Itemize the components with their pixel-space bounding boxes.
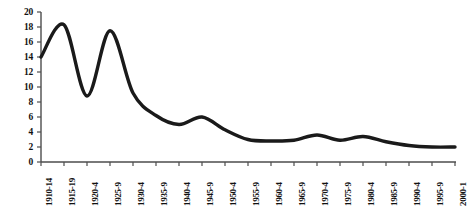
x-axis-tick-label: 1975-9 — [344, 182, 353, 206]
x-axis-tick-label: 1985-9 — [390, 182, 399, 206]
x-axis-tick-label: 1920-4 — [91, 182, 100, 206]
x-axis-tick-label: 1995-9 — [436, 182, 445, 206]
y-axis-tick-label: 2 — [11, 142, 33, 152]
data-line-series-1 — [41, 24, 455, 147]
y-axis-tick-label: 20 — [11, 7, 33, 17]
x-axis-tick-label: 1990-4 — [413, 182, 422, 206]
x-axis-tick-label: 1970-4 — [321, 182, 330, 206]
x-axis-tick-label: 1935-9 — [160, 182, 169, 206]
x-axis-tick-label: 2000-1 — [459, 182, 468, 206]
y-axis-tick-label: 10 — [11, 82, 33, 92]
x-axis-tick-label: 1925-9 — [114, 182, 123, 206]
x-axis-tick-label: 1930-4 — [137, 182, 146, 206]
x-axis-tick-label: 1910-14 — [45, 178, 54, 206]
y-axis-tick-label: 4 — [11, 127, 33, 137]
x-axis-tick-label: 1965-9 — [298, 182, 307, 206]
y-axis-tick-label: 14 — [11, 52, 33, 62]
x-axis-tick-label: 1955-9 — [252, 182, 261, 206]
y-axis-tick-label: 16 — [11, 37, 33, 47]
y-axis-tick-label: 12 — [11, 67, 33, 77]
y-axis-tick-label: 18 — [11, 22, 33, 32]
y-axis-tick-label: 0 — [11, 157, 33, 167]
x-axis-tick-label: 1945-9 — [206, 182, 215, 206]
x-axis-tick-label: 1960-4 — [275, 182, 284, 206]
x-axis-tick-label: 1940-4 — [183, 182, 192, 206]
x-axis-tick-label: 1950-4 — [229, 182, 238, 206]
x-axis-tick-label: 1915-19 — [68, 178, 77, 206]
y-axis-tick-label: 8 — [11, 97, 33, 107]
y-axis-tick-label: 6 — [11, 112, 33, 122]
line-chart: 02468101214161820 1910-141915-191920-419… — [0, 0, 474, 211]
x-axis-tick-label: 1980-4 — [367, 182, 376, 206]
